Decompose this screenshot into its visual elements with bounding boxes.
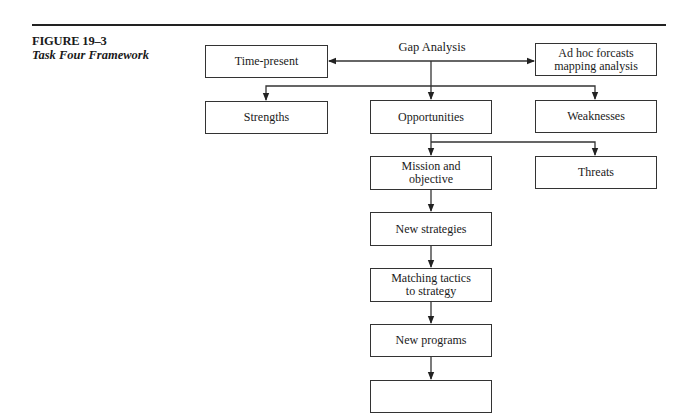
node-threats: Threats: [535, 156, 657, 189]
node-label: Time-present: [235, 55, 299, 68]
node-weaknesses: Weaknesses: [535, 100, 657, 133]
node-label: Ad hoc forcasts mapping analysis: [554, 47, 638, 73]
node-opportunities: Opportunities: [370, 100, 492, 134]
node-label: Strengths: [244, 111, 289, 124]
node-label: Matching tactics to strategy: [391, 272, 471, 298]
node-label: Mission and objective: [401, 160, 460, 186]
node-label: Threats: [578, 166, 614, 179]
node-time-present: Time-present: [205, 45, 328, 78]
node-matching-tactics: Matching tactics to strategy: [370, 268, 492, 302]
gap-analysis-label: Gap Analysis: [386, 40, 478, 55]
node-label: New strategies: [396, 223, 467, 236]
node-label: Opportunities: [398, 111, 464, 124]
node-mission-objective: Mission and objective: [370, 156, 492, 190]
node-new-programs: New programs: [370, 324, 492, 357]
node-new-strategies: New strategies: [370, 212, 492, 246]
node-strengths: Strengths: [205, 101, 328, 134]
node-label: Weaknesses: [567, 110, 625, 123]
node-ad-hoc-forecasts: Ad hoc forcasts mapping analysis: [535, 43, 657, 76]
node-next-step-cut-off: [370, 380, 492, 413]
node-label: New programs: [396, 334, 467, 347]
